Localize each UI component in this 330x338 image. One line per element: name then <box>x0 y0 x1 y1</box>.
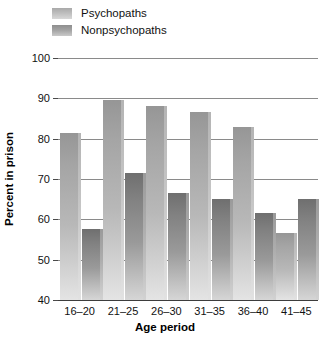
bar-psychopaths <box>276 233 294 300</box>
bar-group <box>146 58 186 300</box>
bar-fill <box>103 100 121 300</box>
x-axis-tick-label: 36–40 <box>238 305 269 317</box>
bar-psychopaths <box>60 133 78 300</box>
bar-fill <box>146 106 164 300</box>
bar-side-shading <box>208 112 211 300</box>
y-axis-tick-label: 40 <box>38 295 50 306</box>
y-axis-tick-label: 50 <box>38 254 50 265</box>
bar-fill <box>276 233 294 300</box>
y-axis-tick-label: 100 <box>32 53 50 64</box>
x-axis-tick-label: 16–20 <box>64 305 95 317</box>
bar-fill <box>255 213 273 300</box>
bar-nonpsychopaths <box>82 229 100 300</box>
bar-psychopaths <box>233 127 251 300</box>
bar-group <box>103 58 143 300</box>
bar-nonpsychopaths <box>168 193 186 300</box>
bar-fill <box>233 127 251 300</box>
bar-nonpsychopaths <box>255 213 273 300</box>
bar-chart-figure: Psychopaths Nonpsychopaths Percent in pr… <box>0 0 330 338</box>
x-axis-title: Age period <box>0 321 330 333</box>
legend-label-nonpsychopaths: Nonpsychopaths <box>81 24 167 37</box>
bar-side-shading <box>316 199 319 300</box>
chart-legend: Psychopaths Nonpsychopaths <box>52 6 272 40</box>
y-axis-tick-label: 80 <box>38 133 50 144</box>
legend-swatch-icon-psychopaths <box>52 8 72 19</box>
bar-side-shading <box>121 100 124 300</box>
bar-group <box>276 58 316 300</box>
bar-fill <box>125 173 143 300</box>
x-axis-tick-label: 26–30 <box>151 305 182 317</box>
bar-fill <box>190 112 208 300</box>
legend-item-psychopaths: Psychopaths <box>52 6 272 21</box>
bar-psychopaths <box>190 112 208 300</box>
legend-label-psychopaths: Psychopaths <box>81 7 147 20</box>
y-axis-tick-label: 70 <box>38 174 50 185</box>
bar-fill <box>168 193 186 300</box>
bar-nonpsychopaths <box>298 199 316 300</box>
bar-fill <box>212 199 230 300</box>
bar-nonpsychopaths <box>125 173 143 300</box>
y-axis-tick-mark <box>53 300 58 301</box>
bar-psychopaths <box>146 106 164 300</box>
y-axis-tick-label: 90 <box>38 93 50 104</box>
bar-nonpsychopaths <box>212 199 230 300</box>
bar-fill <box>298 199 316 300</box>
bar-psychopaths <box>103 100 121 300</box>
bar-group <box>233 58 273 300</box>
x-axis-baseline <box>58 300 318 301</box>
bar-side-shading <box>251 127 254 300</box>
bar-side-shading <box>294 233 297 300</box>
bar-fill <box>82 229 100 300</box>
bar-side-shading <box>164 106 167 300</box>
y-axis-tick-label: 60 <box>38 214 50 225</box>
bar-group <box>60 58 100 300</box>
plot-area: 405060708090100 <box>58 58 318 300</box>
x-axis-tick-label: 41–45 <box>281 305 312 317</box>
legend-item-nonpsychopaths: Nonpsychopaths <box>52 23 272 38</box>
y-axis-title: Percent in prison <box>2 58 16 300</box>
bar-fill <box>60 133 78 300</box>
bars-container <box>58 58 318 300</box>
x-axis-tick-label: 21–25 <box>108 305 139 317</box>
legend-swatch-icon-nonpsychopaths <box>52 25 72 36</box>
x-axis-tick-label: 31–35 <box>194 305 225 317</box>
bar-group <box>190 58 230 300</box>
bar-side-shading <box>78 133 81 300</box>
y-axis-title-text: Percent in prison <box>3 132 15 226</box>
